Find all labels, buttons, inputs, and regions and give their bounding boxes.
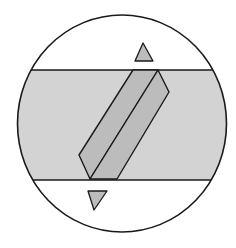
field-of-view-svg: [0, 0, 236, 248]
bottom-marker-triangle-icon: [88, 191, 107, 210]
top-marker-triangle-icon: [135, 43, 153, 61]
diagram-figure: [0, 0, 236, 248]
